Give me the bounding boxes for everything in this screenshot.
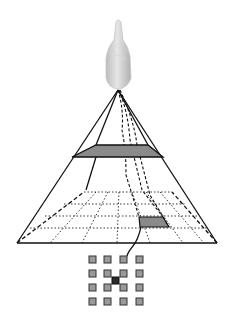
projection-rays bbox=[118, 90, 169, 227]
pixel-center bbox=[112, 277, 119, 284]
camera-object bbox=[106, 20, 131, 89]
view-frustum bbox=[17, 90, 217, 243]
diagram-canvas bbox=[0, 0, 230, 315]
image-plane bbox=[72, 145, 163, 157]
pixel-grid bbox=[89, 256, 143, 305]
ground-grid bbox=[30, 192, 208, 243]
cell-to-pixel-link bbox=[127, 227, 141, 256]
